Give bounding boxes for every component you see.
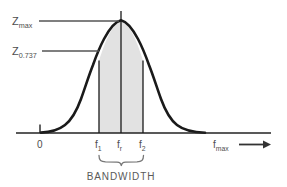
zmax-subscript: max: [19, 21, 33, 30]
fmax-axis-label: fmax: [213, 139, 229, 152]
f2-subscript: 2: [142, 145, 146, 152]
z0737-subscript: 0.737: [19, 51, 37, 60]
fmax-arrow-icon: [239, 141, 271, 149]
resonance-bandwidth-figure: Zmax Z0.737 0 f1 fr f2 fmax: [0, 0, 287, 187]
bandwidth-brace: [99, 156, 144, 166]
fr-subscript: r: [120, 145, 123, 152]
f1-tick-label: f1: [95, 139, 102, 152]
zmax-label: Zmax: [12, 15, 33, 30]
f2-tick-label: f2: [139, 139, 146, 152]
z0737-label: Z0.737: [12, 45, 37, 60]
origin-tick-label: 0: [37, 139, 43, 150]
fmax-subscript: max: [216, 145, 229, 152]
bandwidth-caption: BANDWIDTH: [87, 171, 156, 182]
figure-canvas: Zmax Z0.737 0 f1 fr f2 fmax: [0, 0, 287, 187]
f1-subscript: 1: [98, 145, 102, 152]
fr-tick-label: fr: [117, 139, 123, 152]
